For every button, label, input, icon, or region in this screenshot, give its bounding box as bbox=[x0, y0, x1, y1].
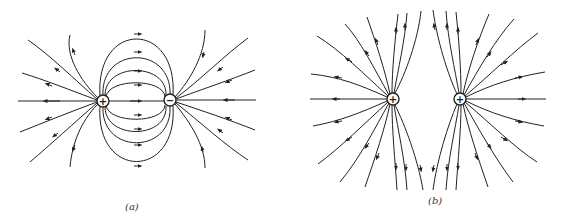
negative-charge-a: − bbox=[164, 94, 176, 106]
positive-charge-b-left: + bbox=[387, 93, 399, 105]
panel-b-like-charges bbox=[310, 10, 546, 190]
svg-text:+: + bbox=[389, 94, 397, 105]
panel-b-label: (b) bbox=[428, 195, 442, 206]
panel-a-dipole bbox=[18, 30, 256, 168]
svg-text:+: + bbox=[99, 96, 107, 107]
field-lines-figure: + − bbox=[0, 0, 562, 223]
svg-text:+: + bbox=[456, 94, 464, 105]
positive-charge-a: + bbox=[97, 95, 109, 107]
panel-a-label: (a) bbox=[125, 201, 139, 212]
positive-charge-b-right: + bbox=[454, 93, 466, 105]
svg-text:−: − bbox=[166, 95, 174, 106]
